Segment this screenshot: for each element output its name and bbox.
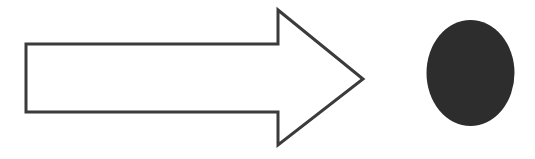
filled-ellipse-shape[interactable] [427, 20, 515, 126]
drawing-canvas [0, 0, 535, 159]
shapes-svg [0, 0, 535, 159]
